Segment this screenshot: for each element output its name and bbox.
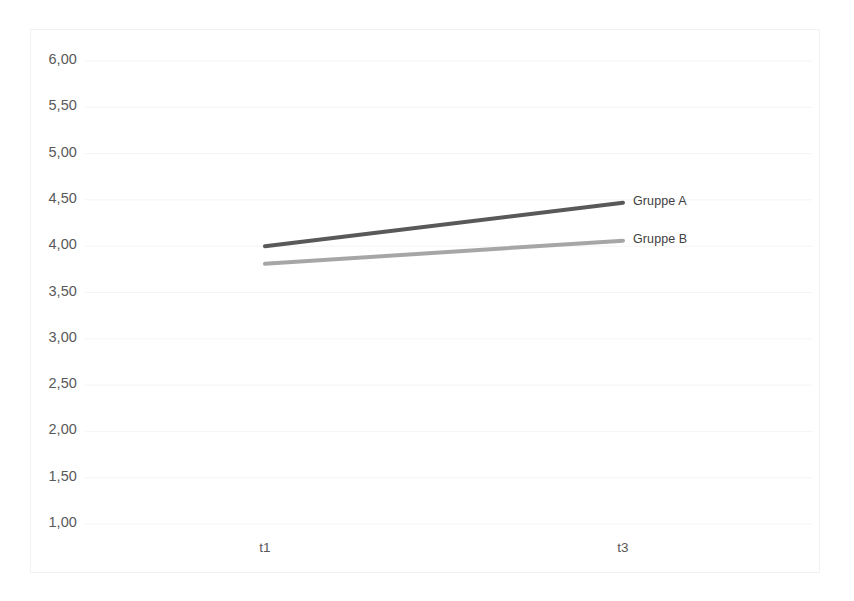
y-tick-label: 3,50 bbox=[31, 283, 77, 299]
plot-area bbox=[0, 0, 854, 601]
y-tick-label: 6,00 bbox=[31, 51, 77, 67]
gridlines bbox=[85, 61, 812, 524]
y-tick-label: 5,50 bbox=[31, 97, 77, 113]
series-line-gruppe-a bbox=[265, 203, 623, 247]
x-tick-label: t1 bbox=[235, 540, 295, 555]
legend-label-gruppe-b: Gruppe B bbox=[633, 232, 687, 246]
line-chart: 6,005,505,004,504,003,503,002,502,001,50… bbox=[0, 0, 854, 601]
y-tick-label: 1,00 bbox=[31, 514, 77, 530]
y-tick-label: 2,00 bbox=[31, 421, 77, 437]
y-tick-label: 4,50 bbox=[31, 190, 77, 206]
y-tick-label: 5,00 bbox=[31, 144, 77, 160]
y-tick-label: 1,50 bbox=[31, 468, 77, 484]
y-tick-label: 3,00 bbox=[31, 329, 77, 345]
y-tick-label: 2,50 bbox=[31, 375, 77, 391]
series-lines bbox=[265, 203, 623, 264]
x-tick-label: t3 bbox=[593, 540, 653, 555]
legend-label-gruppe-a: Gruppe A bbox=[633, 194, 687, 208]
y-tick-label: 4,00 bbox=[31, 236, 77, 252]
series-line-gruppe-b bbox=[265, 241, 623, 264]
